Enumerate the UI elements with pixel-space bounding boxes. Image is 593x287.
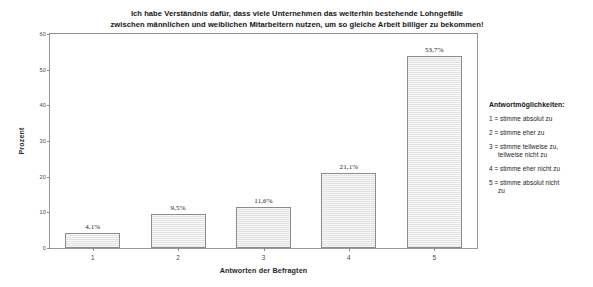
- legend-title: Antwortmöglichkeiten:: [489, 101, 589, 108]
- bar-value-label: 53,7%: [399, 46, 469, 54]
- bar: [65, 233, 120, 248]
- x-tick-label: 2: [163, 254, 193, 261]
- legend-items: 1 = stimme absolut zu2 = stimme eher zu3…: [489, 115, 589, 195]
- y-tick-label: 10: [29, 209, 46, 215]
- legend-item: 2 = stimme eher zu: [489, 129, 589, 137]
- x-tick-mark: [434, 248, 435, 251]
- bar: [151, 214, 206, 248]
- x-tick-label: 1: [78, 254, 108, 261]
- y-axis-title: Prozent: [18, 127, 25, 154]
- y-tick-mark: [47, 105, 50, 106]
- x-tick-mark: [93, 248, 94, 251]
- bar-value-label: 21,1%: [314, 163, 384, 171]
- legend-item-label: 2 = stimme eher zu: [489, 129, 544, 136]
- legend-item: 5 = stimme absolut nichtzu: [489, 179, 589, 195]
- y-tick-label: 50: [29, 67, 46, 73]
- bar-chart-figure: Ich habe Verständnis dafür, dass viele U…: [0, 0, 593, 287]
- chart-title: Ich habe Verständnis dafür, dass viele U…: [62, 9, 532, 30]
- y-tick-label: 30: [29, 138, 46, 144]
- bar: [407, 56, 462, 248]
- legend-item-label-continued: zu: [489, 187, 589, 195]
- bar-value-label: 11,6%: [229, 197, 299, 205]
- plot-frame: 0102030405060 12345 4,1%9,5%11,6%21,1%53…: [49, 33, 478, 249]
- y-tick-label: 20: [29, 174, 46, 180]
- y-tick-mark: [47, 212, 50, 213]
- chart-title-line-1: Ich habe Verständnis dafür, dass viele U…: [131, 9, 463, 18]
- legend-item: 1 = stimme absolut zu: [489, 115, 589, 123]
- y-tick-mark: [47, 70, 50, 71]
- legend-item-label-continued: teilweise nicht zu: [489, 151, 589, 159]
- legend-item-label: 5 = stimme absolut nicht: [489, 179, 559, 186]
- legend-item-label: 1 = stimme absolut zu: [489, 115, 552, 122]
- x-tick-label: 3: [249, 254, 279, 261]
- bar-value-label: 9,5%: [143, 204, 213, 212]
- x-tick-label: 4: [334, 254, 364, 261]
- legend-item-label: 3 = stimme teilweise zu,: [489, 143, 558, 150]
- x-tick-mark: [178, 248, 179, 251]
- legend: Antwortmöglichkeiten: 1 = stimme absolut…: [489, 101, 589, 201]
- y-tick-label: 60: [29, 31, 46, 37]
- x-axis-title: Antworten der Befragten: [49, 266, 478, 275]
- legend-item: 4 = stimme eher nicht zu: [489, 165, 589, 173]
- y-tick-label: 40: [29, 102, 46, 108]
- legend-item-label: 4 = stimme eher nicht zu: [489, 165, 560, 172]
- x-tick-mark: [264, 248, 265, 251]
- x-tick-label: 5: [419, 254, 449, 261]
- plot-area: 0102030405060 12345 4,1%9,5%11,6%21,1%53…: [50, 34, 477, 248]
- bar-value-label: 4,1%: [58, 223, 128, 231]
- bar: [321, 173, 376, 248]
- y-tick-label: 0: [29, 245, 46, 251]
- y-tick-mark: [47, 248, 50, 249]
- chart-title-line-2: zwischen männlichen und weiblichen Mitar…: [111, 20, 484, 29]
- y-tick-mark: [47, 177, 50, 178]
- legend-item: 3 = stimme teilweise zu,teilweise nicht …: [489, 143, 589, 159]
- bar: [236, 207, 291, 248]
- y-tick-mark: [47, 34, 50, 35]
- y-tick-mark: [47, 141, 50, 142]
- x-tick-mark: [349, 248, 350, 251]
